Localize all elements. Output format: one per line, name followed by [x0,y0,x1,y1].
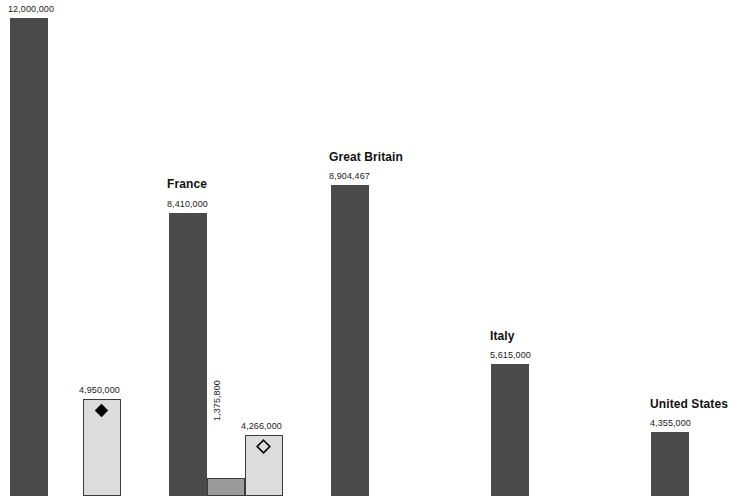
bar-dark [10,18,48,496]
value-label: 8,410,000 [167,199,208,210]
bar-dark [331,185,369,496]
filled-diamond-icon [94,403,109,418]
value-label: 4,950,000 [79,385,120,396]
country-label-united-states: United States [650,397,728,411]
bar-dark [651,432,689,496]
country-label-great-britain: Great Britain [329,150,403,164]
bar-dark [491,364,529,496]
value-label: 12,000,000 [8,4,54,15]
bar-medium [207,478,245,496]
bar-dark [169,213,207,496]
value-label: 4,355,000 [650,418,691,429]
open-diamond-icon [256,439,271,454]
country-label-italy: Italy [490,329,515,343]
value-label: 5,615,000 [490,350,531,361]
value-label-rotated: 1,375,800 [212,380,223,421]
bar-chart: 12,000,000 4,950,000 France 8,410,000 1,… [0,0,746,496]
value-label: 4,266,000 [241,421,282,432]
value-label: 8,904,467 [329,171,370,182]
plot-area: 12,000,000 4,950,000 France 8,410,000 1,… [0,0,746,496]
country-label-france: France [167,177,207,191]
